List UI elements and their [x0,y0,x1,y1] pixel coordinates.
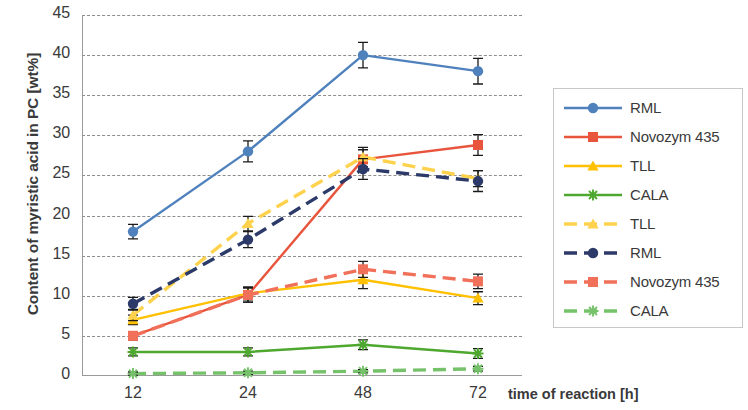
y-tick-15: 15 [28,245,70,263]
data-point-marker [588,305,599,316]
data-point-marker [473,348,484,359]
legend: RMLNovozym 435TLLCALATLLRMLNovozym 435CA… [553,88,743,328]
data-point-marker [128,299,138,309]
data-point-marker [588,102,598,112]
data-point-marker [358,366,369,377]
data-point-marker [128,331,138,341]
y-tick-10: 10 [28,285,70,303]
legend-item-rml-solid[interactable]: RML [554,93,742,122]
legend-item-label: CALA [630,302,668,319]
y-tick-45: 45 [28,4,70,22]
legend-item-rml-dashed[interactable]: RML [554,238,742,267]
data-point-marker [358,339,369,350]
series-line [133,55,478,231]
y-tick-0: 0 [28,365,70,383]
legend-item-cala-dashed[interactable]: CALA [554,296,742,325]
data-point-marker [588,277,598,287]
series-tll-dashed [127,147,483,320]
series-line [133,280,478,320]
y-tick-20: 20 [28,205,70,223]
series-layer [82,15,522,376]
series-cala-solid [128,339,484,359]
legend-item-tll-solid[interactable]: TLL [554,151,742,180]
legend-item-novozym-435-dashed[interactable]: Novozym 435 [554,267,742,296]
data-point-marker [128,226,138,236]
y-tick-25: 25 [28,164,70,182]
legend-key-swatch [562,98,624,118]
series-line [133,157,478,315]
data-point-marker [588,132,598,142]
legend-key-swatch [562,127,624,147]
legend-key-swatch [562,301,624,321]
data-point-marker [243,367,254,378]
legend-key-swatch [562,243,624,263]
legend-item-label: TLL [630,157,655,174]
legend-item-label: RML [630,99,661,116]
data-point-marker [588,247,598,257]
data-point-marker [358,50,368,60]
data-point-marker [243,346,254,357]
x-tick-48: 48 [333,384,393,402]
x-tick-72: 72 [448,384,508,402]
legend-item-tll-dashed[interactable]: TLL [554,209,742,238]
data-point-marker [358,164,368,174]
legend-item-label: TLL [630,215,655,232]
series-line [133,269,478,336]
legend-item-cala-solid[interactable]: CALA [554,180,742,209]
data-point-marker [473,140,483,150]
legend-item-novozym-435-solid[interactable]: Novozym 435 [554,122,742,151]
series-rml-solid [128,42,483,239]
legend-item-label: RML [630,244,661,261]
legend-key-swatch [562,185,624,205]
data-point-marker [588,189,599,200]
data-point-marker [243,290,253,300]
series-line [133,345,478,354]
data-point-marker [128,346,139,357]
y-tick-35: 35 [28,84,70,102]
x-tick-24: 24 [218,384,278,402]
legend-item-label: Novozym 435 [630,128,720,145]
plot-area [82,15,522,376]
x-axis-title: time of reaction [h] [508,386,639,402]
y-tick-30: 30 [28,124,70,142]
series-novozym-435-dashed [128,261,483,341]
legend-item-label: Novozym 435 [630,273,720,290]
series-cala-dashed [128,363,484,379]
data-point-marker [128,368,139,379]
series-line [133,369,478,374]
chart-root: Content of myristic acid in PC [wt%] 051… [0,0,748,410]
x-tick-12: 12 [103,384,163,402]
legend-key-swatch [562,156,624,176]
data-point-marker [473,66,483,76]
legend-item-label: CALA [630,186,668,203]
data-point-marker [358,264,368,274]
y-tick-5: 5 [28,325,70,343]
data-point-marker [243,146,253,156]
y-tick-40: 40 [28,44,70,62]
data-point-marker [473,276,483,286]
legend-key-swatch [562,272,624,292]
data-point-marker [243,234,253,244]
data-point-marker [473,363,484,374]
data-point-marker [473,176,483,186]
series-tll-solid [127,271,483,325]
legend-key-swatch [562,214,624,234]
